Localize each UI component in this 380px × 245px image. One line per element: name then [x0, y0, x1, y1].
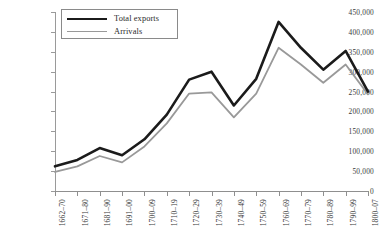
legend-item-arrivals: Arrivals — [67, 25, 142, 38]
legend-item-total-exports: Total exports — [67, 12, 159, 25]
legend: Total exports Arrivals — [61, 9, 178, 39]
series-line-total-exports — [55, 22, 368, 166]
legend-label-arrivals: Arrivals — [114, 27, 142, 36]
legend-label-total-exports: Total exports — [114, 14, 159, 23]
legend-swatch-arrivals — [67, 31, 107, 32]
legend-swatch-total-exports — [67, 18, 107, 20]
